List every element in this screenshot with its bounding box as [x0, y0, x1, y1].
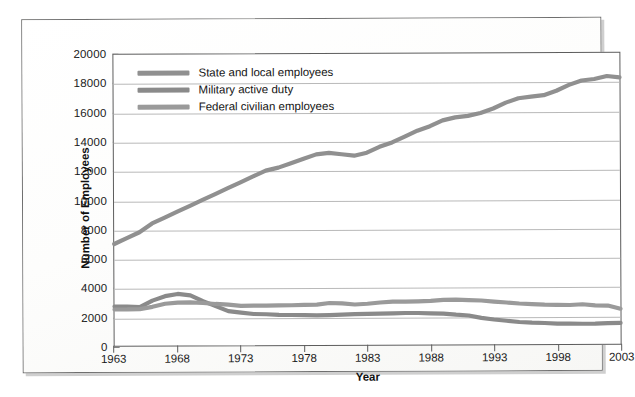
y-axis-tick-label: 16000 [74, 106, 107, 118]
x-axis-title: Year [114, 370, 622, 384]
x-axis-tick-mark [367, 345, 368, 352]
y-axis-title-holder: Number of Employees [54, 54, 75, 347]
x-axis-tick-mark [431, 344, 432, 351]
legend-swatch-icon [137, 70, 189, 75]
series-line [114, 299, 620, 311]
x-axis-tick-label: 1993 [482, 351, 508, 363]
x-axis-tick-mark [113, 346, 114, 353]
legend-item-label: State and local employees [198, 66, 333, 79]
legend: State and local employeesMilitary active… [137, 66, 334, 113]
legend-item: Military active duty [138, 83, 335, 96]
y-axis-tick-label: 18000 [73, 77, 106, 89]
x-axis-tick-label: 1978 [291, 352, 317, 364]
legend-item: State and local employees [137, 66, 334, 79]
y-axis-tick-label: 0 [101, 341, 108, 353]
series-line [114, 292, 620, 326]
plot-wrapper: State and local employeesMilitary active… [112, 52, 621, 347]
x-axis-tick-labels: 196319681973197819831988199319982003 [114, 345, 622, 371]
x-axis-tick-label: 1988 [418, 351, 444, 363]
y-axis-title: Number of Employees [79, 118, 92, 298]
y-axis-tick-label: 20000 [73, 48, 106, 60]
x-axis-tick-label: 1998 [545, 351, 571, 363]
x-axis-tick-mark [621, 344, 622, 351]
x-axis-tick-label: 2003 [609, 351, 635, 363]
x-axis-tick-mark [304, 345, 305, 352]
legend-swatch-icon [138, 87, 190, 92]
legend-item: Federal civilian employees [138, 100, 335, 113]
plot-area: State and local employeesMilitary active… [112, 52, 621, 347]
page-frame: 0200040006000800010000120001400016000180… [21, 17, 603, 374]
y-axis-tick-label: 2000 [81, 312, 107, 324]
legend-item-label: Military active duty [199, 83, 294, 95]
x-axis-tick-label: 1983 [355, 352, 381, 364]
x-axis-tick-label: 1973 [228, 352, 254, 364]
x-axis-tick-mark [177, 346, 178, 353]
x-axis-tick-label: 1968 [164, 353, 190, 365]
legend-item-label: Federal civilian employees [199, 100, 335, 113]
legend-swatch-icon [138, 104, 190, 109]
x-axis-tick-mark [558, 344, 559, 351]
x-axis-tick-mark [494, 344, 495, 351]
x-axis-tick-mark [240, 345, 241, 352]
x-axis-tick-label: 1963 [101, 353, 127, 365]
